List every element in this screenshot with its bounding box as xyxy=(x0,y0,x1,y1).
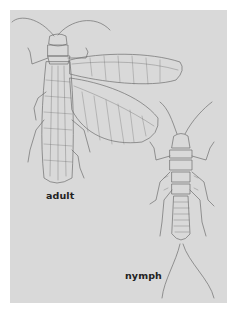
adult-insect-drawing xyxy=(12,18,182,183)
adult-label: adult xyxy=(46,190,74,201)
nymph-insect-drawing xyxy=(150,102,214,298)
nymph-label: nymph xyxy=(125,270,162,281)
insect-illustration xyxy=(0,0,237,323)
